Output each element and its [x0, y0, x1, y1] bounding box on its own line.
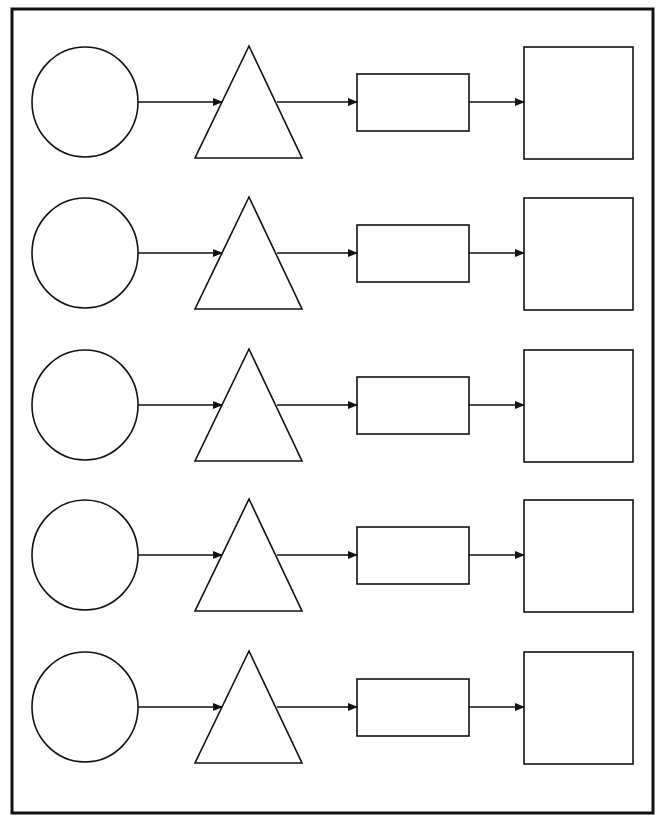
worksheet-border [12, 9, 653, 813]
square-shape [524, 47, 633, 159]
shape-row [32, 349, 633, 462]
shape-row [32, 46, 633, 159]
square-shape [524, 198, 633, 310]
circle-shape [32, 47, 138, 157]
square-shape [524, 500, 633, 612]
rectangle-shape [357, 679, 469, 736]
shape-sequence-worksheet [0, 0, 659, 823]
rectangle-shape [357, 527, 469, 584]
circle-shape [32, 500, 138, 610]
rectangle-shape [357, 74, 469, 131]
square-shape [524, 652, 633, 764]
rectangle-shape [357, 377, 469, 434]
circle-shape [32, 350, 138, 460]
square-shape [524, 350, 633, 462]
shape-row [32, 499, 633, 612]
shape-row [32, 197, 633, 310]
shape-row [32, 651, 633, 764]
circle-shape [32, 652, 138, 762]
circle-shape [32, 198, 138, 308]
rectangle-shape [357, 225, 469, 282]
